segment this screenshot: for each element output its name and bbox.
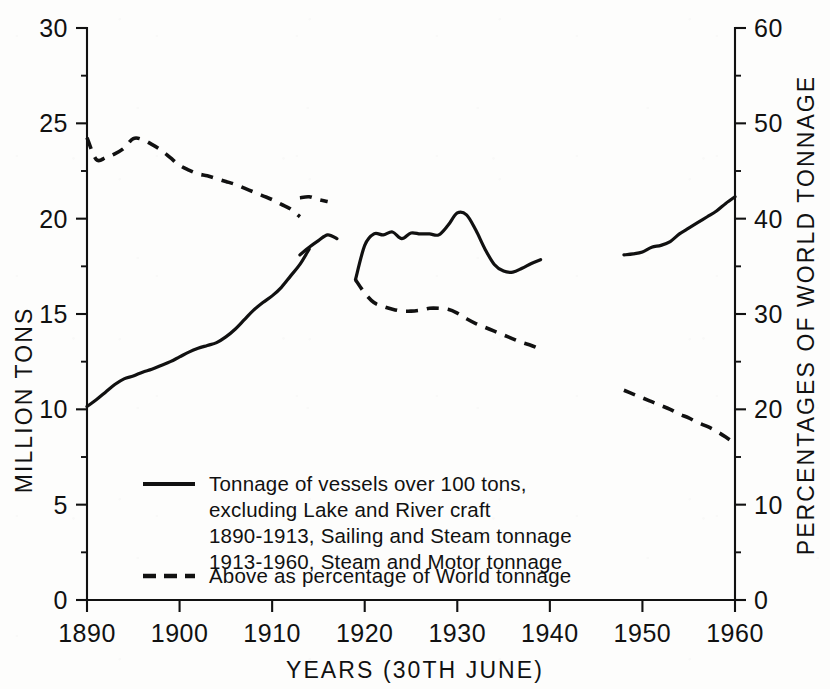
- legend-entry-1-line-0: Above as percentage of World tonnage: [209, 564, 571, 587]
- series-1-segment-1: [300, 197, 328, 202]
- x-tick-label: 1900: [151, 619, 209, 647]
- y-tick-label-right: 30: [754, 300, 783, 328]
- x-tick-label: 1920: [336, 619, 394, 647]
- left-axis-ticks: 051015202530: [39, 14, 87, 614]
- y-tick-label-left: 15: [39, 300, 68, 328]
- y-tick-label-left: 30: [39, 14, 68, 42]
- y-tick-label-right: 10: [754, 491, 783, 519]
- y-axis-right-title: PERCENTAGES OF WORLD TONNAGE: [793, 75, 819, 556]
- series-1-segment-2: [355, 280, 540, 350]
- legend-entry-0-line-1: excluding Lake and River craft: [209, 498, 491, 521]
- x-tick-label: 1960: [706, 619, 764, 647]
- x-tick-label: 1890: [58, 619, 116, 647]
- series-0-segment-1: [300, 235, 337, 255]
- y-tick-label-left: 5: [54, 491, 68, 519]
- series-0-segment-3: [624, 197, 735, 255]
- series-paths: [87, 138, 735, 444]
- legend-entry-0-line-0: Tonnage of vessels over 100 tons,: [209, 472, 527, 495]
- chart-figure: 051015202530 0102030405060 1890190019101…: [0, 0, 830, 689]
- x-tick-label: 1950: [614, 619, 672, 647]
- x-tick-label: 1910: [243, 619, 301, 647]
- y-tick-label-right: 60: [754, 14, 783, 42]
- y-tick-label-left: 0: [54, 586, 68, 614]
- chart-legend: Tonnage of vessels over 100 tons, exclud…: [143, 472, 572, 587]
- legend-entry-0-line-2: 1890-1913, Sailing and Steam tonnage: [209, 524, 572, 547]
- series-0-segment-2: [355, 212, 540, 280]
- y-tick-label-left: 20: [39, 205, 68, 233]
- x-tick-label: 1940: [521, 619, 579, 647]
- y-tick-label-left: 25: [39, 109, 68, 137]
- x-axis-title: YEARS (30TH JUNE): [286, 657, 544, 683]
- chart-canvas: 051015202530 0102030405060 1890190019101…: [0, 0, 830, 689]
- y-tick-label-right: 50: [754, 109, 783, 137]
- y-tick-label-left: 10: [39, 395, 68, 423]
- y-tick-label-right: 40: [754, 205, 783, 233]
- y-tick-label-right: 20: [754, 395, 783, 423]
- series-0-segment-0: [87, 249, 309, 406]
- series-1-segment-3: [624, 390, 735, 443]
- series-1-segment-0: [87, 138, 300, 217]
- right-axis-ticks: 0102030405060: [735, 14, 783, 614]
- y-tick-label-right: 0: [754, 586, 768, 614]
- x-axis-ticks: 18901900191019201930194019501960: [58, 600, 764, 647]
- y-axis-left-title: MILLION TONS: [11, 307, 37, 494]
- x-tick-label: 1930: [428, 619, 486, 647]
